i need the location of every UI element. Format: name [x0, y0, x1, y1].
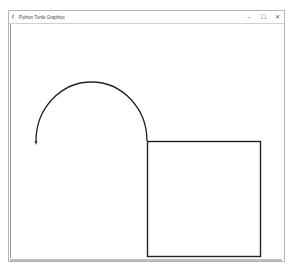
- drawing-layer: [0, 0, 292, 274]
- square-shape: [148, 142, 261, 257]
- semicircle-arc: [36, 82, 147, 142]
- turtle-cursor-icon: [35, 141, 38, 145]
